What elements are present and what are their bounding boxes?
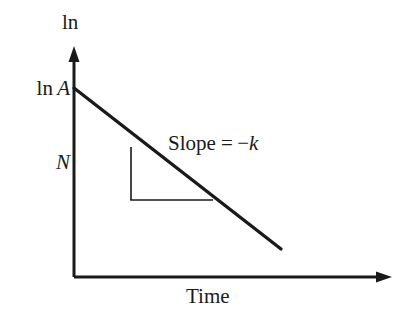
y-axis-label: ln <box>62 12 78 33</box>
y-axis-label-text: ln <box>62 10 78 34</box>
x-axis-arrowhead <box>376 272 392 283</box>
x-axis <box>74 272 392 283</box>
y-intercept-label: ln A <box>12 78 70 99</box>
slope-symbol: k <box>249 131 258 155</box>
y-quantity-symbol: N <box>56 150 70 174</box>
x-axis-label: Time <box>186 286 230 307</box>
slope-annotation: Slope = −k <box>168 133 258 154</box>
slope-sign: − <box>237 131 249 155</box>
decay-line <box>74 88 281 249</box>
y-quantity-label: N <box>12 152 70 173</box>
y-intercept-prefix: ln <box>37 76 53 100</box>
decay-plot-figure: ln ln A N Slope = −k Time <box>0 0 411 322</box>
y-intercept-symbol: A <box>57 76 70 100</box>
y-axis-arrowhead <box>69 46 80 62</box>
y-axis <box>69 46 80 277</box>
slope-prefix: Slope = <box>168 131 233 155</box>
x-axis-label-text: Time <box>186 284 230 308</box>
